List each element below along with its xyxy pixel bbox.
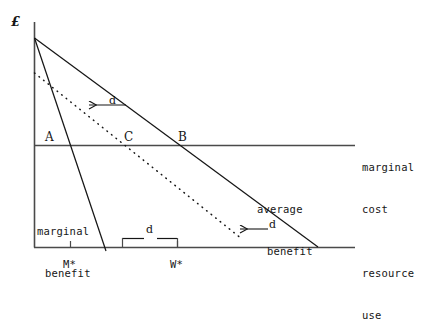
y-axis-label: £ [11, 15, 20, 28]
marginal-cost-label: marginal cost [362, 132, 414, 244]
marginal-benefit-label: marginal benefit [37, 196, 91, 308]
x-axis-label: resource use [362, 238, 414, 323]
marginal-cost-label-line1: marginal [362, 160, 414, 174]
x-axis-label-line2: use [362, 308, 414, 322]
gap-bracket-label: d [146, 223, 153, 236]
marginal-cost-label-line2: cost [362, 202, 414, 216]
x-axis-label-line1: resource [362, 266, 414, 280]
average-benefit-label-line1: average [257, 202, 313, 216]
x-tick-label-w-star: W* [170, 258, 183, 271]
marginal-benefit-label-line2: benefit [37, 266, 91, 280]
average-benefit-label-line2: benefit [257, 244, 313, 258]
point-label-a: A [45, 131, 54, 144]
point-label-b: B [178, 131, 187, 144]
average-benefit-label: average benefit [257, 174, 313, 286]
shift-arrow-upper-label: d [109, 94, 116, 107]
marginal-benefit-label-line1: marginal [37, 224, 91, 238]
point-label-c: C [124, 131, 133, 144]
